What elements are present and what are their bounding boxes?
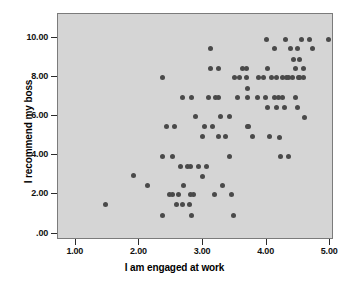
y-axis-tick bbox=[51, 76, 57, 77]
data-point bbox=[187, 202, 192, 207]
x-axis-tick bbox=[75, 239, 76, 245]
data-point bbox=[237, 75, 242, 80]
data-point bbox=[326, 37, 331, 42]
x-axis-tick-label: 4.00 bbox=[257, 246, 274, 256]
data-point bbox=[288, 46, 293, 51]
data-point bbox=[189, 95, 194, 100]
data-point bbox=[307, 37, 312, 42]
data-point bbox=[160, 75, 165, 80]
data-point bbox=[216, 66, 221, 71]
data-point bbox=[278, 154, 283, 159]
data-point bbox=[264, 37, 269, 42]
y-axis-tick-label: 4.00 bbox=[2, 149, 48, 159]
data-point bbox=[223, 134, 228, 139]
y-axis-tick bbox=[51, 233, 57, 234]
data-point bbox=[274, 75, 279, 80]
data-point bbox=[265, 66, 270, 71]
data-point bbox=[210, 124, 215, 129]
data-point bbox=[204, 164, 209, 169]
data-point bbox=[174, 202, 179, 207]
data-point bbox=[301, 66, 306, 71]
data-point bbox=[172, 124, 177, 129]
data-point bbox=[229, 192, 234, 197]
data-point bbox=[263, 95, 268, 100]
data-point bbox=[297, 57, 302, 62]
data-point bbox=[200, 174, 205, 179]
data-point bbox=[295, 46, 300, 51]
data-point bbox=[212, 192, 217, 197]
data-point bbox=[245, 86, 250, 91]
x-axis-tick-label: 1.00 bbox=[66, 246, 83, 256]
data-point bbox=[293, 95, 298, 100]
data-point bbox=[208, 66, 213, 71]
data-point bbox=[227, 114, 232, 119]
y-axis-tick-label: .00 bbox=[2, 228, 48, 238]
data-point bbox=[272, 46, 277, 51]
data-point bbox=[291, 57, 296, 62]
data-point bbox=[267, 134, 272, 139]
data-point bbox=[170, 154, 175, 159]
data-point bbox=[218, 114, 223, 119]
data-point bbox=[191, 192, 196, 197]
data-point bbox=[208, 46, 213, 51]
data-point bbox=[299, 37, 304, 42]
x-axis-tick bbox=[329, 239, 330, 245]
data-point bbox=[189, 213, 194, 218]
data-point bbox=[145, 183, 150, 188]
data-point bbox=[181, 183, 186, 188]
y-axis-tick bbox=[51, 37, 57, 38]
data-point bbox=[265, 105, 270, 110]
data-point bbox=[200, 134, 205, 139]
data-point bbox=[180, 95, 185, 100]
data-point bbox=[283, 37, 288, 42]
x-axis-tick bbox=[138, 239, 139, 245]
y-axis-tick bbox=[51, 193, 57, 194]
data-point bbox=[188, 164, 193, 169]
data-point bbox=[277, 135, 282, 140]
data-point bbox=[286, 154, 291, 159]
data-point bbox=[255, 95, 260, 100]
data-point bbox=[180, 202, 185, 207]
data-point bbox=[280, 95, 285, 100]
data-point bbox=[196, 164, 201, 169]
data-point bbox=[246, 124, 251, 129]
data-point bbox=[244, 75, 249, 80]
x-axis-tick-label: 2.00 bbox=[130, 246, 147, 256]
y-axis-tick bbox=[51, 154, 57, 155]
data-point bbox=[302, 115, 307, 120]
data-point bbox=[310, 46, 315, 51]
y-axis-tick-label: 8.00 bbox=[2, 71, 48, 81]
data-point bbox=[178, 164, 183, 169]
data-point bbox=[293, 66, 298, 71]
data-point bbox=[220, 183, 225, 188]
x-axis-tick-label: 3.00 bbox=[194, 246, 211, 256]
y-axis-tick-label: 6.00 bbox=[2, 110, 48, 120]
data-point bbox=[160, 213, 165, 218]
data-point bbox=[274, 105, 279, 110]
data-point bbox=[216, 134, 221, 139]
x-axis-tick bbox=[202, 239, 203, 245]
data-point bbox=[240, 66, 245, 71]
data-point bbox=[206, 95, 211, 100]
data-point bbox=[256, 75, 261, 80]
data-point bbox=[282, 105, 287, 110]
y-axis-tick-label: 10.00 bbox=[2, 32, 48, 42]
data-point bbox=[103, 202, 108, 207]
scatter-chart: I recommend my boss I am engaged at work… bbox=[0, 0, 349, 285]
data-point bbox=[227, 154, 232, 159]
plot-area bbox=[57, 13, 333, 239]
data-point bbox=[202, 124, 207, 129]
y-axis-tick bbox=[51, 115, 57, 116]
y-axis-tick-label: 2.00 bbox=[2, 188, 48, 198]
x-axis-tick bbox=[266, 239, 267, 245]
data-point bbox=[193, 114, 198, 119]
data-point bbox=[272, 95, 277, 100]
data-point bbox=[160, 154, 165, 159]
data-point bbox=[235, 95, 240, 100]
data-point bbox=[269, 75, 274, 80]
data-point bbox=[176, 192, 181, 197]
data-point bbox=[164, 124, 169, 129]
x-axis-title: I am engaged at work bbox=[0, 262, 349, 273]
x-axis-tick-label: 5.00 bbox=[321, 246, 338, 256]
data-point bbox=[131, 173, 136, 178]
